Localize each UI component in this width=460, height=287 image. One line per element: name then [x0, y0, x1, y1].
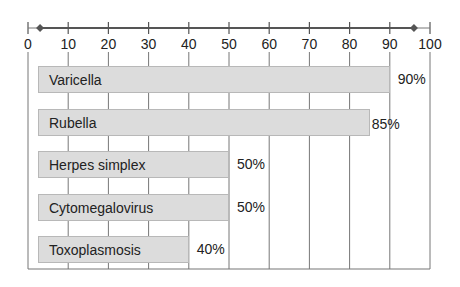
bar: Cytomegalovirus [38, 194, 229, 221]
x-tick-label: 10 [60, 36, 76, 52]
bar-category-label: Varicella [49, 72, 102, 88]
diamond-marker-icon [36, 24, 44, 32]
x-tick-label: 0 [24, 36, 32, 52]
x-tick-label: 30 [141, 36, 157, 52]
x-tick-label: 70 [302, 36, 318, 52]
bar-value-label: 50% [237, 156, 265, 172]
x-tick-label: 40 [181, 36, 197, 52]
x-tick-label: 50 [221, 36, 237, 52]
x-tick-label: 80 [342, 36, 358, 52]
x-tick-label: 60 [261, 36, 277, 52]
bar-category-label: Herpes simplex [49, 157, 145, 173]
bar: Toxoplasmosis [38, 236, 189, 263]
bar-value-label: 85% [372, 116, 400, 132]
bar: Herpes simplex [38, 151, 229, 178]
horizontal-bar-chart: 0102030405060708090100 Varicella90%Rubel… [0, 0, 460, 287]
diamond-marker-icon [410, 24, 418, 32]
x-tick-label: 100 [418, 36, 441, 52]
bar-category-label: Rubella [49, 115, 96, 131]
x-tick-label: 90 [382, 36, 398, 52]
bar-value-label: 90% [398, 71, 426, 87]
bar-value-label: 50% [237, 199, 265, 215]
bar: Varicella [38, 66, 390, 93]
bar-value-label: 40% [197, 241, 225, 257]
bar-category-label: Cytomegalovirus [49, 200, 153, 216]
bar: Rubella [38, 109, 370, 136]
x-tick-label: 20 [101, 36, 117, 52]
bar-category-label: Toxoplasmosis [49, 242, 141, 258]
